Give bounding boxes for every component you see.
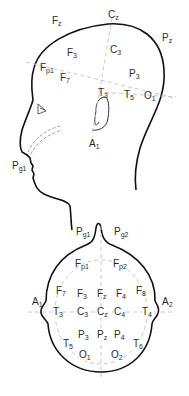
electrode-label-f4-top: F4 — [116, 289, 126, 300]
electrode-label-pg2-top: Pg2 — [114, 227, 128, 238]
electrode-label-a1-side: A1 — [89, 139, 100, 150]
side-view-head — [20, 18, 176, 230]
electrode-label-f3-side: F3 — [67, 48, 77, 59]
electrode-label-pg1-side: Pg1 — [12, 161, 26, 172]
electrode-label-p4-top: P4 — [114, 330, 125, 341]
eye-icon — [38, 104, 46, 114]
nasal-guide-lines — [28, 126, 62, 154]
electrode-label-t5-side: T5 — [124, 90, 134, 101]
occipital-guide-line — [98, 92, 176, 97]
electrode-label-c3-top: C3 — [77, 307, 88, 318]
electrode-label-pg1-top: Pg1 — [76, 227, 90, 238]
electrode-label-t3-top: T3 — [53, 307, 63, 318]
electrode-label-t3-side: T3 — [98, 88, 108, 99]
electrode-label-fp1-top: Fp1 — [75, 259, 89, 270]
electrode-label-t4-top: T4 — [142, 307, 152, 318]
electrode-label-pz-side: Pz — [162, 33, 172, 44]
vertical-guide-line — [92, 18, 112, 135]
electrode-label-t6-top: T6 — [133, 339, 143, 350]
electrode-label-f7-top: F7 — [56, 286, 66, 297]
face-profile-outline — [20, 68, 72, 230]
eeg-diagram-canvas — [0, 0, 189, 396]
electrode-label-pz-top: Pz — [97, 330, 107, 341]
electrode-label-cz-side: Cz — [108, 10, 119, 21]
electrode-label-c3-side: C3 — [110, 45, 121, 56]
electrode-label-o2-top: O2 — [111, 350, 123, 361]
electrode-label-a2-top: A2 — [162, 297, 173, 308]
top-view-head — [28, 224, 174, 381]
electrode-label-c4-top: C4 — [114, 307, 125, 318]
electrode-label-fp2-top: Fp2 — [113, 259, 127, 270]
electrode-label-f3-top: F3 — [77, 289, 87, 300]
electrode-label-t5-top: T5 — [63, 339, 73, 350]
electrode-label-a1-top: A1 — [32, 297, 43, 308]
ear-icon — [92, 97, 109, 130]
electrode-label-o1-top: O1 — [79, 350, 91, 361]
electrode-label-cz-top: Cz — [97, 307, 108, 318]
electrode-label-fz-top: Fz — [97, 289, 107, 300]
head-profile-outline — [34, 24, 164, 190]
electrode-label-f7-side: F7 — [60, 73, 70, 84]
electrode-label-p3-side: P3 — [129, 69, 140, 80]
electrode-label-f8-top: F8 — [136, 286, 146, 297]
electrode-label-o1-side: O1 — [144, 91, 156, 102]
electrode-label-fp1-side: Fp1 — [40, 63, 54, 74]
electrode-label-p3-top: P3 — [78, 330, 89, 341]
electrode-label-fz-side: Fz — [52, 16, 62, 27]
